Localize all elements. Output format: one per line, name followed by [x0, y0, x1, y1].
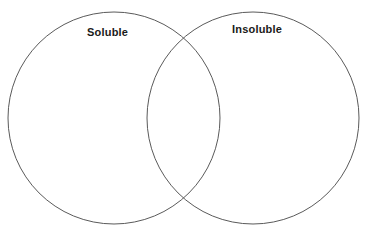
venn-label-soluble: Soluble	[87, 27, 128, 38]
venn-region-overlap[interactable]	[150, 40, 220, 198]
venn-region-right[interactable]	[222, 12, 359, 226]
venn-label-insoluble: Insoluble	[232, 24, 282, 35]
venn-region-left[interactable]	[8, 12, 148, 226]
venn-diagram: Soluble Insoluble	[0, 0, 367, 238]
